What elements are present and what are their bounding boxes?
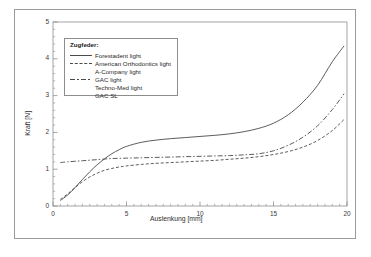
- legend-label: GAC light: [95, 76, 121, 84]
- legend-item-forestadent-light: Forestadent light: [70, 52, 176, 60]
- chart-legend: Zugfeder: Forestadent light American Ort…: [64, 38, 178, 96]
- x-tick-label: 0: [47, 211, 59, 218]
- legend-swatch-solid-icon: [70, 55, 92, 57]
- legend-item-american-orthodontics-light: American Orthodontics light: [70, 60, 176, 68]
- y-axis-title: Kraft [N]: [21, 94, 33, 154]
- legend-label: A-Company light: [95, 68, 141, 76]
- y-tick-label: 1: [37, 166, 49, 173]
- figure-frame: Kraft [N] Auslenkung [mm] Zugfeder: Fore…: [14, 9, 356, 239]
- legend-swatch-blank-icon: [70, 71, 92, 72]
- y-tick-label: 2: [37, 129, 49, 136]
- legend-swatch-blank-icon: [70, 95, 92, 96]
- x-tick-label: 20: [341, 211, 353, 218]
- legend-label: Techno-Med light: [95, 84, 142, 92]
- legend-title: Zugfeder:: [70, 42, 99, 48]
- legend-item-a-company-light: A-Company light: [70, 68, 176, 76]
- x-tick-label: 15: [268, 211, 280, 218]
- legend-item-gac-sl: GAC SL: [70, 92, 176, 100]
- y-tick-label: 5: [37, 19, 49, 26]
- legend-item-gac-light: GAC light: [70, 76, 176, 84]
- y-tick-label: 0: [37, 203, 49, 210]
- legend-label: Forestadent light: [95, 52, 141, 60]
- legend-item-techno-med-light: Techno-Med light: [70, 84, 176, 92]
- x-tick-label: 10: [194, 211, 206, 218]
- legend-swatch-dashdot-icon: [70, 79, 92, 80]
- legend-label: American Orthodontics light: [95, 60, 171, 68]
- y-axis-title-text: Kraft [N]: [25, 97, 32, 149]
- y-tick-label: 3: [37, 92, 49, 99]
- y-tick-label: 4: [37, 55, 49, 62]
- legend-label: GAC SL: [95, 92, 118, 100]
- legend-swatch-blank-icon: [70, 87, 92, 88]
- chart-plot-region: Kraft [N] Auslenkung [mm] Zugfeder: Fore…: [15, 10, 357, 240]
- x-tick-label: 5: [121, 211, 133, 218]
- legend-swatch-dashed-icon: [70, 63, 92, 65]
